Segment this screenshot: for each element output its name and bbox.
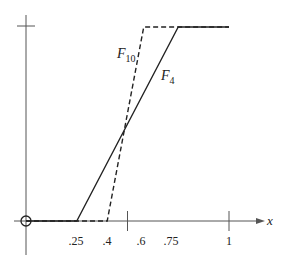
x-tick-label: .6 (137, 234, 146, 248)
axes: x .25.4.6.751 (14, 15, 273, 255)
legend-f4: F4 (160, 68, 175, 86)
f10-subscript: 10 (126, 53, 136, 64)
f4-label: F (160, 68, 170, 83)
f4-subscript: 4 (170, 75, 175, 86)
cdf-chart: x .25.4.6.751 F10 F4 (0, 0, 284, 270)
x-tick-label: .25 (69, 234, 84, 248)
x-axis-label: x (266, 213, 273, 228)
x-tick-label: .4 (103, 234, 112, 248)
x-axis-arrow-icon (256, 218, 265, 224)
x-tick-labels: .25.4.6.751 (69, 234, 233, 248)
legend-f10: F10 (116, 46, 136, 64)
x-tick-label: .75 (164, 234, 179, 248)
svg-text:F4: F4 (160, 68, 175, 86)
x-tick-label: 1 (226, 234, 232, 248)
f10-label: F (116, 46, 126, 61)
svg-text:F10: F10 (116, 46, 136, 64)
